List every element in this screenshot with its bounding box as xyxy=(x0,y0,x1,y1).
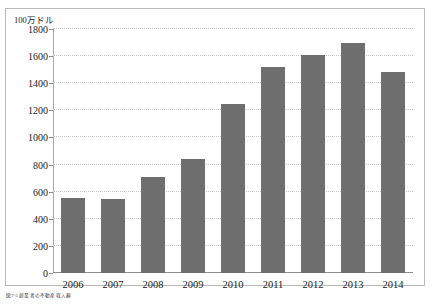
plot-area: 020040060080010001200140016001800 200620… xyxy=(53,29,413,273)
bar-slot: 2012 xyxy=(293,29,333,273)
y-tick-label: 400 xyxy=(33,213,48,224)
y-tick-label: 0 xyxy=(43,268,48,279)
bar-group: 200620072008200920102011201220132014 xyxy=(53,29,413,273)
bar-slot: 2008 xyxy=(133,29,173,273)
y-tick-label: 200 xyxy=(33,240,48,251)
y-tick-mark xyxy=(49,273,53,274)
chart-figure: 100万ドル 020040060080010001200140016001800… xyxy=(5,8,425,286)
bar-slot: 2010 xyxy=(213,29,253,273)
bar-2009[interactable] xyxy=(181,159,205,273)
bar-slot: 2009 xyxy=(173,29,213,273)
bar-2011[interactable] xyxy=(261,67,285,273)
x-tick-label: 2014 xyxy=(383,279,404,290)
bar-slot: 2013 xyxy=(333,29,373,273)
y-tick-label: 800 xyxy=(33,159,48,170)
bar-slot: 2007 xyxy=(93,29,133,273)
x-tick-label: 2010 xyxy=(223,279,244,290)
bar-2010[interactable] xyxy=(221,104,245,273)
x-tick-label: 2007 xyxy=(103,279,124,290)
bar-2006[interactable] xyxy=(61,198,85,273)
y-tick-label: 1800 xyxy=(28,24,48,35)
x-tick-label: 2009 xyxy=(183,279,204,290)
figure-caption: 図7-5 創業者の不動産収入額 xyxy=(6,292,71,298)
bar-slot: 2014 xyxy=(373,29,413,273)
y-tick-label: 600 xyxy=(33,186,48,197)
bar-2008[interactable] xyxy=(141,177,165,273)
y-tick-label: 1400 xyxy=(28,78,48,89)
bar-slot: 2011 xyxy=(253,29,293,273)
y-tick-label: 1600 xyxy=(28,51,48,62)
x-tick-label: 2008 xyxy=(143,279,164,290)
y-tick-label: 1200 xyxy=(28,105,48,116)
x-tick-label: 2012 xyxy=(303,279,324,290)
x-tick-label: 2006 xyxy=(63,279,84,290)
bar-2013[interactable] xyxy=(341,43,365,273)
x-tick-label: 2011 xyxy=(263,279,284,290)
bar-2012[interactable] xyxy=(301,55,325,273)
bar-2014[interactable] xyxy=(381,72,405,273)
y-tick-label: 1000 xyxy=(28,132,48,143)
bar-2007[interactable] xyxy=(101,199,125,273)
x-tick-label: 2013 xyxy=(343,279,364,290)
bar-slot: 2006 xyxy=(53,29,93,273)
